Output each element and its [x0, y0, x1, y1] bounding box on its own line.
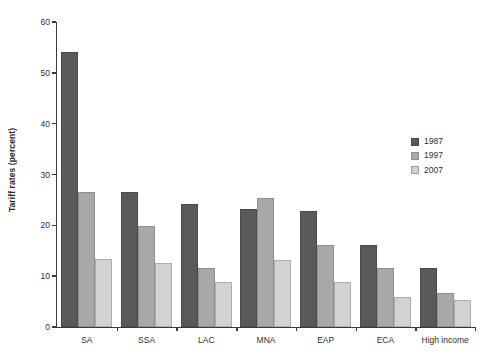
bar-group-bars [296, 22, 356, 327]
bar-sa-2007[interactable] [95, 259, 112, 327]
legend-item-1987[interactable]: 1987 [411, 136, 443, 147]
legend-item-1997[interactable]: 1997 [411, 150, 443, 161]
x-axis-tick-label: EAP [296, 335, 356, 345]
legend-swatch-icon [411, 152, 419, 160]
bar-mna-1987[interactable] [240, 209, 257, 327]
bar-eca-1997[interactable] [377, 268, 394, 327]
bar-eap-1997[interactable] [317, 245, 334, 327]
y-axis-tick: 10 [0, 270, 56, 282]
x-axis-tick-label: ECA [356, 335, 416, 345]
x-axis-tick-mark [236, 327, 237, 331]
bar-sa-1987[interactable] [61, 52, 78, 327]
y-axis-tick: 0 [0, 321, 56, 333]
y-axis-tick: 50 [0, 67, 56, 79]
y-axis-tick-mark [52, 275, 56, 276]
bar-group: SSA [117, 22, 177, 327]
x-axis-tick-mark [176, 327, 177, 331]
bar-lac-1997[interactable] [198, 268, 215, 327]
bar-eca-1987[interactable] [360, 245, 377, 327]
bar-group: LAC [176, 22, 236, 327]
legend: 198719972007 [411, 136, 443, 175]
y-axis-tick-mark [52, 174, 56, 175]
x-axis-tick-label: High income [415, 335, 475, 345]
legend-swatch-icon [411, 138, 419, 146]
bar-eap-2007[interactable] [334, 282, 351, 327]
y-axis-tick-mark [52, 326, 56, 327]
y-axis-tick-mark [52, 123, 56, 124]
x-axis-tick-label: SA [57, 335, 117, 345]
bar-ssa-1997[interactable] [138, 226, 155, 327]
y-axis-tick: 40 [0, 118, 56, 130]
bar-group-bars [57, 22, 117, 327]
bar-high-income-1997[interactable] [437, 293, 454, 327]
bar-lac-2007[interactable] [215, 282, 232, 327]
legend-swatch-icon [411, 166, 419, 174]
bar-ssa-1987[interactable] [121, 192, 138, 327]
legend-item-2007[interactable]: 2007 [411, 164, 443, 175]
bar-high-income-2007[interactable] [454, 300, 471, 327]
x-axis-tick-mark [415, 327, 416, 331]
legend-item-label: 2007 [424, 166, 443, 175]
bar-group-bars [117, 22, 177, 327]
bar-group: EAP [296, 22, 356, 327]
bar-eca-2007[interactable] [394, 297, 411, 327]
bar-chart-figure: Tariff rates (percent) 0102030405060 SAS… [0, 0, 483, 364]
y-axis-tick: 20 [0, 219, 56, 231]
legend-item-label: 1987 [424, 137, 443, 146]
x-axis-tick-label: SSA [117, 335, 177, 345]
bar-group: ECA [356, 22, 416, 327]
bar-group-bars [236, 22, 296, 327]
y-axis-tick-mark [52, 225, 56, 226]
y-axis-tick-mark [52, 72, 56, 73]
bar-group-bars [176, 22, 236, 327]
x-axis-tick-mark [296, 327, 297, 331]
x-axis-tick-label: LAC [176, 335, 236, 345]
bar-group: MNA [236, 22, 296, 327]
bar-sa-1997[interactable] [78, 192, 95, 327]
legend-item-label: 1997 [424, 151, 443, 160]
x-axis-tick-label: MNA [236, 335, 296, 345]
bar-group-bars [356, 22, 416, 327]
x-axis-line [56, 327, 475, 328]
x-axis-tick-mark [356, 327, 357, 331]
bar-ssa-2007[interactable] [155, 263, 172, 327]
x-axis-tick-mark [117, 327, 118, 331]
y-axis-tick: 30 [0, 169, 56, 181]
x-axis-tick-mark [475, 327, 476, 331]
bar-group: SA [57, 22, 117, 327]
y-axis-tick-mark [52, 21, 56, 22]
bar-mna-1997[interactable] [257, 198, 274, 327]
bar-high-income-1987[interactable] [420, 268, 437, 327]
y-axis-tick: 60 [0, 16, 56, 28]
bar-mna-2007[interactable] [274, 260, 291, 327]
bar-lac-1987[interactable] [181, 204, 198, 327]
bar-eap-1987[interactable] [300, 211, 317, 327]
